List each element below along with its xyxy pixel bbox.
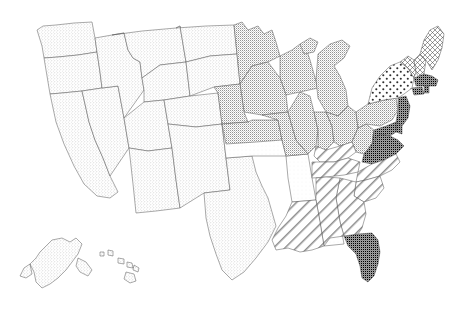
state-NY[interactable]: New York (368, 62, 414, 104)
state-KS[interactable]: Kansas (222, 120, 282, 144)
state-NJ[interactable]: New Jersey (396, 96, 410, 126)
state-AZ[interactable]: Arizona (129, 148, 180, 213)
us-map-container: Washington Oregon California Nevada Idah… (0, 0, 469, 311)
state-FL[interactable]: Florida (344, 233, 380, 282)
state-LA[interactable]: Louisiana (272, 200, 324, 252)
state-AK[interactable]: Alaska (20, 238, 92, 288)
state-HI[interactable]: Hawaii (100, 250, 139, 283)
us-states-map: Washington Oregon California Nevada Idah… (0, 0, 469, 311)
state-AR[interactable]: Arkansas (286, 154, 316, 202)
state-CT[interactable]: Connecticut (412, 87, 424, 95)
state-RI[interactable]: Rhode Island (424, 86, 429, 93)
state-OR[interactable]: Oregon (44, 52, 102, 94)
state-WA[interactable]: Washington (37, 22, 97, 58)
state-MA[interactable]: Massachusetts (414, 74, 438, 86)
